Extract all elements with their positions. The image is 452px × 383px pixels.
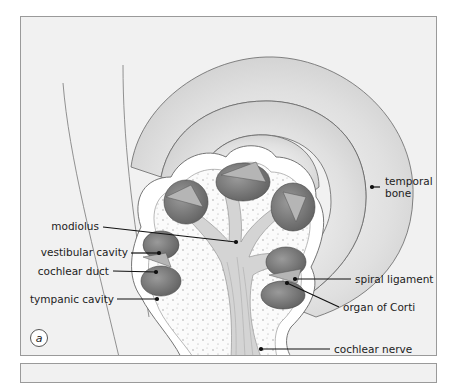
figure-panel-b	[20, 363, 437, 383]
label-modiolus: modiolus	[31, 220, 99, 232]
label-organ-of-corti: organ of Corti	[343, 301, 415, 313]
label-spiral-ligament: spiral ligament	[355, 273, 433, 285]
label-tympanic-cavity: tympanic cavity	[21, 293, 114, 305]
label-temporal-bone: temporal bone	[385, 175, 433, 199]
label-cochlear-nerve: cochlear nerve	[334, 343, 412, 355]
figure-panel-a: modiolus vestibular cavity cochlear duct…	[20, 16, 437, 356]
label-vestibular-cavity: vestibular cavity	[21, 246, 128, 258]
panel-letter-badge: a	[30, 329, 48, 347]
chamber-upper-left	[164, 180, 208, 224]
label-cochlear-duct: cochlear duct	[21, 265, 109, 277]
label-temporal-bone-line1: temporal	[385, 175, 433, 187]
chamber-upper-right	[271, 183, 315, 231]
label-temporal-bone-line2: bone	[385, 187, 433, 199]
